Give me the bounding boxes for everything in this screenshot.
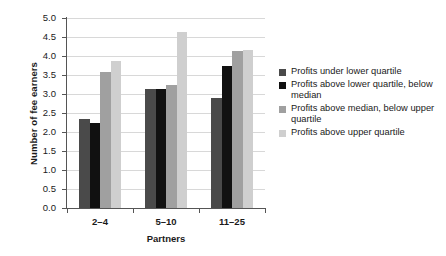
bar[interactable] xyxy=(111,61,122,208)
bar[interactable] xyxy=(232,51,243,208)
legend-item-label: Profits under lower quartile xyxy=(291,66,402,78)
y-tick-label: 0.5 xyxy=(16,184,56,194)
x-tick-mark xyxy=(265,209,266,213)
x-tick-mark xyxy=(133,209,134,213)
legend-item-label: Profits above lower quartile, below medi… xyxy=(291,79,445,102)
legend-swatch-icon xyxy=(279,106,286,113)
y-tick-label: 0.0 xyxy=(16,203,56,213)
y-tick-label: 4.5 xyxy=(16,32,56,42)
plot-area xyxy=(67,18,265,208)
bar[interactable] xyxy=(100,72,111,208)
y-tick-label: 4.0 xyxy=(16,51,56,61)
y-tick-label: 3.0 xyxy=(16,89,56,99)
bar[interactable] xyxy=(156,89,167,208)
x-tick-mark xyxy=(199,209,200,213)
bar-group xyxy=(67,18,133,208)
x-tick-mark xyxy=(67,209,68,213)
legend-swatch-icon xyxy=(279,69,286,76)
legend-item[interactable]: Profits under lower quartile xyxy=(279,66,445,78)
bar[interactable] xyxy=(222,66,233,209)
bar[interactable] xyxy=(90,123,101,208)
x-tick-label: 2–4 xyxy=(65,216,135,227)
bar[interactable] xyxy=(243,50,254,208)
gridline xyxy=(67,208,265,209)
legend-item[interactable]: Profits above median, below upper quarti… xyxy=(279,103,445,126)
legend-item[interactable]: Profits above lower quartile, below medi… xyxy=(279,79,445,102)
legend-swatch-icon xyxy=(279,82,286,89)
bar[interactable] xyxy=(177,32,188,208)
bar[interactable] xyxy=(79,119,90,208)
y-tick-label: 2.5 xyxy=(16,108,56,118)
y-tick-label: 2.0 xyxy=(16,127,56,137)
bar-chart-figure: Number of fee earners 5.04.54.03.53.02.5… xyxy=(0,0,446,256)
y-tick-label: 1.5 xyxy=(16,146,56,156)
y-tick-label: 5.0 xyxy=(16,13,56,23)
bar-group xyxy=(199,18,265,208)
legend-item-label: Profits above upper quartile xyxy=(291,127,405,139)
legend-item[interactable]: Profits above upper quartile xyxy=(279,127,445,139)
legend-item-label: Profits above median, below upper quarti… xyxy=(291,103,445,126)
x-tick-label: 5–10 xyxy=(131,216,201,227)
bar-group xyxy=(133,18,199,208)
x-tick-label: 11–25 xyxy=(197,216,267,227)
y-tick-label: 3.5 xyxy=(16,70,56,80)
bar[interactable] xyxy=(145,89,156,208)
legend-swatch-icon xyxy=(279,130,286,137)
chart-legend: Profits under lower quartileProfits abov… xyxy=(279,66,445,139)
bar[interactable] xyxy=(166,85,177,209)
x-axis-title: Partners xyxy=(67,233,265,244)
bar[interactable] xyxy=(211,98,222,208)
y-tick-label: 1.0 xyxy=(16,165,56,175)
